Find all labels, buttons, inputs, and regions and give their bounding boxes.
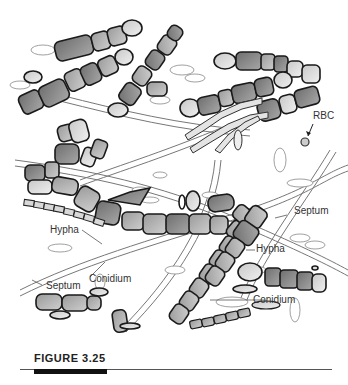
label-conidium-left: Conidium xyxy=(89,273,131,284)
conidia-chain xyxy=(233,263,326,293)
red-blood-cell xyxy=(301,124,313,146)
label-rbc: RBC xyxy=(313,110,334,121)
figure-caption: FIGURE 3.25 xyxy=(34,352,106,364)
label-hypha-right: Hypha xyxy=(256,243,285,254)
label-septum-right: Septum xyxy=(294,205,328,216)
caption-rule-accent xyxy=(34,369,107,374)
label-conidium-right: Conidium xyxy=(253,294,295,305)
label-septum-left: Septum xyxy=(46,280,80,291)
label-hypha-left: Hypha xyxy=(50,224,79,235)
conidia-chain xyxy=(36,288,140,333)
